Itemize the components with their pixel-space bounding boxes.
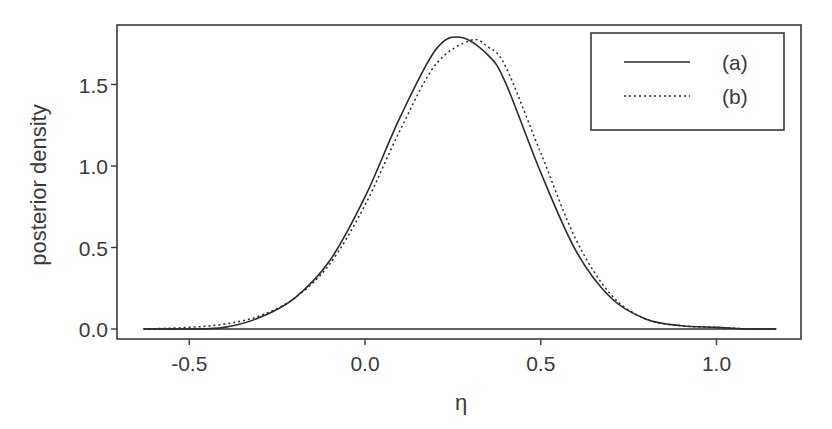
legend-label-a: (a) — [722, 51, 748, 74]
x-tick-label: -0.5 — [171, 352, 207, 375]
x-tick-label: 0.0 — [350, 352, 379, 375]
x-axis-ticks: -0.50.00.51.0 — [171, 339, 731, 375]
legend-label-b: (b) — [722, 85, 748, 108]
y-axis-label: posterior density — [26, 104, 51, 265]
y-tick-label: 0.5 — [79, 237, 108, 260]
x-tick-label: 0.5 — [526, 352, 555, 375]
x-axis-label: η — [455, 390, 467, 415]
posterior-density-chart: -0.50.00.51.0 0.00.51.01.5 η posterior d… — [0, 0, 832, 429]
y-tick-label: 0.0 — [79, 318, 108, 341]
y-tick-label: 1.5 — [79, 74, 108, 97]
legend: (a) (b) — [591, 33, 784, 130]
y-axis-ticks: 0.00.51.01.5 — [79, 74, 117, 342]
y-tick-label: 1.0 — [79, 155, 108, 178]
legend-box — [591, 33, 784, 130]
x-tick-label: 1.0 — [702, 352, 731, 375]
